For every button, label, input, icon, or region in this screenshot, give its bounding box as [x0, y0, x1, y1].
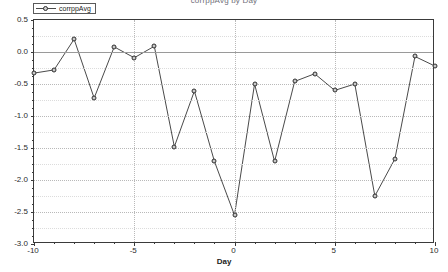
data-point-marker[interactable] — [232, 213, 237, 218]
x-axis-tick-minor — [275, 242, 276, 244]
y-axis-tick-label: 0.0 — [17, 47, 28, 56]
x-axis-tick-minor — [375, 242, 376, 244]
data-point-marker[interactable] — [292, 79, 297, 84]
gridline-vertical — [235, 20, 236, 242]
data-point-marker[interactable] — [352, 82, 357, 87]
y-axis-tick — [31, 212, 34, 213]
y-axis-tick-label: -1.5 — [14, 143, 28, 152]
gridline-horizontal — [34, 180, 433, 181]
x-axis-tick-minor — [154, 242, 155, 244]
data-point-marker[interactable] — [392, 156, 397, 161]
y-axis-tick — [31, 84, 34, 85]
x-axis-tick-minor — [355, 242, 356, 244]
plot-area — [33, 19, 434, 243]
x-axis-tick-minor — [114, 242, 115, 244]
y-axis: 0.50.0-0.5-1.0-1.5-2.0-2.5-3.0 — [0, 0, 31, 272]
x-axis-tick-label: 10 — [430, 246, 439, 255]
x-axis-tick-minor — [315, 242, 316, 244]
data-point-marker[interactable] — [92, 96, 97, 101]
y-axis-tick-label: -1.0 — [14, 111, 28, 120]
y-axis-tick-minor — [32, 188, 34, 189]
y-axis-tick-minor — [32, 140, 34, 141]
y-axis-tick-minor — [32, 60, 34, 61]
x-axis-tick-minor — [74, 242, 75, 244]
data-point-marker[interactable] — [433, 64, 438, 69]
x-axis-tick-minor — [94, 242, 95, 244]
data-point-marker[interactable] — [372, 194, 377, 199]
chart-container: corrppAvg by Day 0.50.0-0.5-1.0-1.5-2.0-… — [0, 0, 448, 272]
y-axis-tick-minor — [32, 44, 34, 45]
data-point-marker[interactable] — [312, 71, 317, 76]
data-point-marker[interactable] — [52, 67, 57, 72]
x-axis-tick-minor — [295, 242, 296, 244]
data-point-marker[interactable] — [132, 55, 137, 60]
x-axis-tick-minor — [194, 242, 195, 244]
gridline-vertical — [335, 20, 336, 242]
x-axis-tick-label: -10 — [27, 246, 39, 255]
y-axis-tick-minor — [32, 132, 34, 133]
x-axis-tick-minor — [214, 242, 215, 244]
data-point-marker[interactable] — [32, 71, 37, 76]
x-axis-tick-label: 0 — [231, 246, 235, 255]
y-axis-tick — [31, 116, 34, 117]
gridline-horizontal — [34, 84, 433, 85]
y-axis-tick-minor — [32, 28, 34, 29]
gridline-horizontal-minor — [34, 228, 433, 229]
gridline-horizontal — [34, 148, 433, 149]
y-axis-tick-minor — [32, 100, 34, 101]
legend-label: corrppAvg — [59, 4, 91, 13]
y-axis-tick-minor — [32, 204, 34, 205]
x-axis-tick-minor — [255, 242, 256, 244]
data-point-marker[interactable] — [112, 44, 117, 49]
y-axis-tick — [31, 148, 34, 149]
y-axis-tick-minor — [32, 108, 34, 109]
gridline-horizontal — [34, 116, 433, 117]
y-axis-tick-minor — [32, 164, 34, 165]
x-axis-tick-label: -5 — [130, 246, 137, 255]
y-axis-tick-minor — [32, 236, 34, 237]
y-axis-tick-minor — [32, 92, 34, 93]
data-point-marker[interactable] — [252, 82, 257, 87]
data-point-marker[interactable] — [152, 44, 157, 49]
data-point-marker[interactable] — [272, 159, 277, 164]
y-axis-tick-label: -2.5 — [14, 207, 28, 216]
y-axis-tick-label: -0.5 — [14, 79, 28, 88]
data-point-marker[interactable] — [172, 144, 177, 149]
y-axis-tick — [31, 52, 34, 53]
y-axis-tick-minor — [32, 36, 34, 37]
x-axis-tick-minor — [174, 242, 175, 244]
x-axis-title: Day — [0, 257, 448, 266]
gridline-horizontal-minor — [34, 36, 433, 37]
y-axis-tick-minor — [32, 220, 34, 221]
x-axis-tick-minor — [54, 242, 55, 244]
data-point-marker[interactable] — [332, 88, 337, 93]
y-axis-tick-minor — [32, 124, 34, 125]
data-point-marker[interactable] — [192, 89, 197, 94]
y-axis-tick-minor — [32, 172, 34, 173]
y-axis-tick-minor — [32, 76, 34, 77]
data-point-marker[interactable] — [412, 54, 417, 59]
legend-marker-icon — [36, 5, 56, 12]
x-axis-tick-minor — [415, 242, 416, 244]
data-point-marker[interactable] — [212, 159, 217, 164]
gridline-horizontal-minor — [34, 164, 433, 165]
legend[interactable]: corrppAvg — [33, 3, 96, 14]
y-axis-tick-label: 0.5 — [17, 15, 28, 24]
y-axis-tick-minor — [32, 68, 34, 69]
gridline-horizontal-minor — [34, 68, 433, 69]
y-axis-tick-minor — [32, 196, 34, 197]
zero-line — [34, 52, 433, 53]
x-axis-tick-label: 5 — [332, 246, 336, 255]
y-axis-tick-minor — [32, 156, 34, 157]
gridline-horizontal-minor — [34, 132, 433, 133]
plot-inner — [34, 20, 433, 242]
x-axis-tick-minor — [395, 242, 396, 244]
y-axis-tick — [31, 20, 34, 21]
data-point-marker[interactable] — [72, 37, 77, 42]
y-axis-tick — [31, 180, 34, 181]
gridline-vertical — [134, 20, 135, 242]
y-axis-tick-label: -2.0 — [14, 175, 28, 184]
y-axis-tick-minor — [32, 228, 34, 229]
